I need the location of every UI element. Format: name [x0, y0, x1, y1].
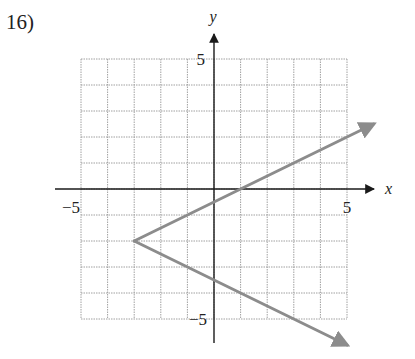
- y-tick-label-max: 5: [197, 50, 206, 69]
- graph-curves: [134, 124, 373, 345]
- x-tick-label-max: 5: [343, 198, 352, 217]
- x-axis-label: x: [384, 180, 392, 197]
- y-tick-label-min: −5: [189, 310, 207, 329]
- upper-ray: [134, 124, 373, 241]
- x-tick-label-min: −5: [62, 198, 80, 217]
- coordinate-plane: −555−5xy: [0, 0, 415, 359]
- axes: [55, 34, 374, 343]
- axis-labels: −555−5xy: [62, 8, 392, 329]
- y-axis-label: y: [207, 8, 217, 26]
